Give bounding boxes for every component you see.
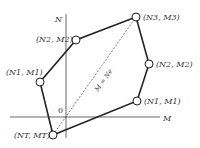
label-right-n2m2: (N2, M2) <box>156 60 193 69</box>
label-left-n2m2: (N2, M2) <box>36 35 73 44</box>
point-n3m3 <box>132 13 140 21</box>
interaction-diagram: N M 0 (N1, M1) (N2, M2) (N3, M3) (N2, M2… <box>0 0 200 148</box>
label-left-n1m1: (N1, M1) <box>6 68 43 77</box>
diagonal-label: M = Ne <box>93 67 115 94</box>
point-right-n1m1 <box>133 97 141 105</box>
label-n3m3: (N3, M3) <box>143 13 180 22</box>
n-axis-label: N <box>54 15 63 24</box>
point-left-n2m2 <box>72 36 80 44</box>
point-right-n2m2 <box>145 60 153 68</box>
m-axis-label: M <box>162 114 172 123</box>
origin-label: 0 <box>58 106 63 115</box>
point-left-n1m1 <box>36 78 44 86</box>
point-ntmt <box>49 131 57 139</box>
label-right-n1m1: (N1, M1) <box>144 97 181 106</box>
label-ntmt: (NT, MT) <box>14 131 50 140</box>
